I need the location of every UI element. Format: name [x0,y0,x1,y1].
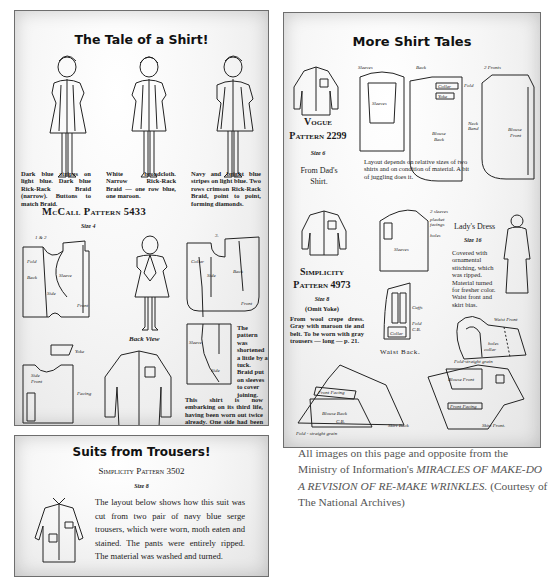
simplicity-4973-size: Size 8 [284,296,360,303]
svg-text:Back: Back [434,137,445,142]
svg-text:Fold - straight grain: Fold - straight grain [295,431,338,436]
waist-back-label: Waist Back. [380,349,420,356]
ladys-dress-illustration [502,215,532,295]
figure-1-caption: Dark blue stripes on light blue. Dark bl… [21,170,91,207]
tuck-note: The pattern was shortened a little by a … [237,324,268,398]
figure-3-caption: Navy and bright blue stripes on light bl… [191,170,261,207]
vogue-layout-note: Layout depends on relative sizes of two … [364,158,476,180]
waist-back-diagram: Collar CuffsFoldC.B. [380,281,440,345]
svg-text:Sleeves: Sleeves [358,65,373,70]
simplicity-4973-note: (Omit Yoke) [284,305,360,312]
figure-2-caption: White broadcloth. Narrow Rick-Rack Braid… [106,170,176,200]
simplicity-shirt-illustration [300,209,348,257]
svg-text:Yoke: Yoke [438,94,448,99]
vogue-pattern-name-line1: Vogue [284,116,352,127]
svg-text:facings: facings [430,222,444,227]
panel-title: More Shirt Tales [284,34,540,49]
svg-text:3.: 3. [215,233,219,238]
third-life-note: This shirt is now embarking on its third… [185,396,263,426]
svg-text:Sleeve: Sleeve [189,340,203,345]
layout-diagram-1-2: 1 & 2 FoldBackSide SleeveFront [21,233,105,323]
sleeves-diagram: 2 sleevesplacketfacings holesSleeves [376,209,456,271]
simplicity-3502-description: The layout below shows how this suit was… [95,496,245,564]
vogue-pattern-name-line2: Pattern 2299 [284,130,352,141]
svg-text:collar: collar [484,347,496,352]
panel-tale-of-a-shirt: The Tale of a Shirt! 1. 2. 3. Dark blue … [14,10,269,426]
panel-more-shirt-tales: More Shirt Tales Vogue Pattern 2299 Size… [283,12,541,448]
svg-text:holes: holes [488,341,499,346]
waist-front-diagram: Waist Frontholescollar [448,309,538,361]
svg-text:2 sleeves: 2 sleeves [430,209,448,214]
svg-text:Blouse Back: Blouse Back [322,411,348,416]
svg-text:Fold: Fold [26,259,37,264]
mccall-pattern-size: Size 4 [81,223,96,230]
simplicity-4973-name-line2: Pattern 4973 [284,279,360,290]
svg-text:Front: Front [76,303,89,308]
svg-text:Front Facing: Front Facing [449,404,477,409]
mccall-pattern-name: McCall Pattern 5433 [42,206,146,217]
svg-text:Fold: Fold [411,321,422,326]
svg-text:Side: Side [211,368,220,373]
svg-text:C.B.: C.B. [336,419,345,424]
simplicity-4973-description: From wool crepe dress. Gray with maroon … [290,315,364,345]
svg-text:Blouse: Blouse [432,131,446,136]
svg-text:Front: Front [509,133,522,138]
svg-text:Side: Side [31,373,40,378]
panel-title: Suits from Trousers! [15,445,268,459]
svg-text:Fold-straight grain: Fold-straight grain [453,359,493,364]
back-view-label: Back View [129,336,160,343]
svg-text:Blouse: Blouse [508,127,522,132]
layout-diagram-side-front: Yoke SideFrontFacing [21,341,91,425]
svg-text:Yoke: Yoke [75,349,85,354]
svg-text:Skirt Back: Skirt Back [388,423,409,428]
shirt-illustration [107,347,177,426]
ladys-dress-description: Covered with ornamental stitching, which… [452,249,498,308]
svg-text:Sleeve: Sleeve [59,273,73,278]
svg-text:Front: Front [30,379,43,384]
svg-text:Back: Back [416,65,427,70]
svg-text:C.B.: C.B. [412,327,421,332]
svg-text:Skirt Front.: Skirt Front. [482,423,505,428]
child-figure-3-illustration: 3. [203,55,263,180]
simplicity-3502-name: Simplicity Pattern 3502 [15,466,268,476]
svg-text:Fold: Fold [463,83,474,88]
vogue-pattern-size: Size 6 [284,150,352,157]
svg-text:Band: Band [468,126,479,131]
layout-diagram-3: 3. CollarSideBackFront [185,233,265,323]
svg-text:Facing: Facing [76,391,92,396]
svg-text:Sleeves: Sleeves [372,101,387,106]
svg-text:Side: Side [47,291,56,296]
svg-text:Waist Front: Waist Front [494,317,518,322]
svg-text:Side: Side [207,273,216,278]
simplicity-3502-size: Size 8 [15,483,268,490]
back-view-illustration [125,235,175,335]
svg-text:Collar: Collar [438,84,451,89]
layout-diagram-facing: SleeveSide [185,322,233,387]
svg-text:holes: holes [430,233,441,238]
panel-title: The Tale of a Shirt! [15,32,268,47]
svg-text:Blouse Front: Blouse Front [448,377,475,382]
vogue-subtitle: From Dad's Shirt. [296,165,342,187]
svg-text:Sleeves: Sleeves [394,247,409,252]
svg-text:Cuffs: Cuffs [412,305,423,310]
skirt-back-diagram: Front Facing Blouse Back C.B.Skirt Back … [292,363,432,443]
ladys-dress-heading: Lady's Dress [454,223,495,230]
dads-shirt-illustration [294,65,340,115]
image-credit-caption: All images on this page and opposite fro… [298,445,550,510]
child-figure-2-illustration: 2. [119,55,179,180]
svg-text:Back: Back [27,275,38,280]
child-figure-1-illustration: 1. [37,55,97,180]
svg-text:2 Fronts: 2 Fronts [484,65,501,70]
svg-text:1 & 2: 1 & 2 [35,235,47,240]
skirt-front-diagram: Fold-straight grain Blouse Front Front F… [424,359,534,435]
suit-jacket-illustration [35,494,87,564]
svg-text:Back: Back [233,269,244,274]
svg-text:Collar: Collar [390,331,403,336]
svg-text:Collar: Collar [191,259,204,264]
svg-text:Front: Front [240,301,253,306]
panel-suits-from-trousers: Suits from Trousers! Simplicity Pattern … [14,435,269,577]
ladys-dress-size: Size 16 [464,237,482,244]
svg-text:Front Facing: Front Facing [317,390,345,395]
simplicity-4973-name-line1: Simplicity [284,266,360,277]
